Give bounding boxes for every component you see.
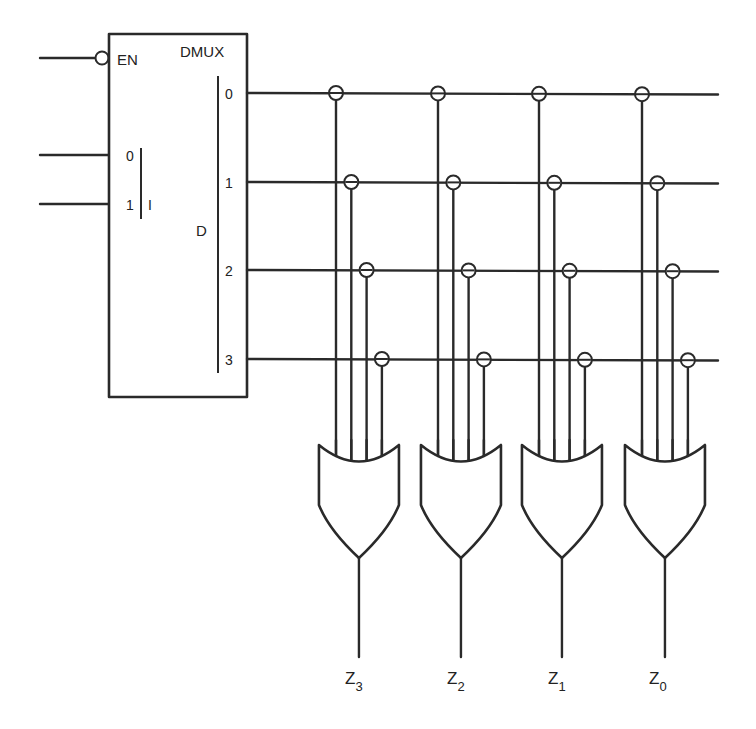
- or-gate-z0: [625, 445, 705, 558]
- dmux-output-line-2: [247, 270, 718, 272]
- output-z1-label: Z1: [548, 669, 566, 694]
- output-z3-label: Z3: [345, 669, 363, 694]
- output-label-0: 0: [225, 86, 233, 102]
- dmux-title: DMUX: [180, 43, 224, 60]
- data-label: D: [196, 222, 207, 239]
- crossbar: [247, 86, 718, 460]
- enable-inversion-bubble: [96, 52, 109, 65]
- or-gates: [319, 440, 705, 657]
- dmux-output-line-1: [247, 182, 718, 184]
- output-z2-label: Z2: [447, 669, 465, 694]
- or-gate-z2: [421, 445, 501, 558]
- select-group-label: I: [148, 197, 152, 213]
- or-gate-z1: [522, 445, 602, 558]
- dmux-or-circuit: EN DMUX 0 1 I D 0 1 2 3 Z3 Z2 Z1 Z0: [0, 0, 756, 729]
- select-label-0: 0: [126, 148, 134, 164]
- or-gate-z3: [319, 445, 399, 558]
- output-z0-label: Z0: [649, 669, 667, 694]
- output-label-1: 1: [225, 175, 233, 191]
- select-label-1: 1: [126, 197, 134, 213]
- enable-label: EN: [117, 51, 138, 68]
- output-label-2: 2: [225, 263, 233, 279]
- output-label-3: 3: [225, 352, 233, 368]
